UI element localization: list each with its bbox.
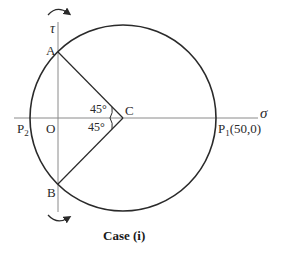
angle-arc-lower [110,118,112,129]
mohr-circle-diagram: τ σ O A B C 45° 45° P2 P1(50,0) Case (i) [0,0,284,253]
rotation-arrow-bottom-icon [48,215,68,221]
point-c-label: C [125,103,134,118]
angle-upper-label: 45° [90,102,107,116]
point-p2-label: P2 [17,121,29,138]
sigma-label: σ [260,105,268,121]
point-b-label: B [47,185,56,200]
angle-arc-upper [110,107,112,118]
angle-lower-label: 45° [88,120,105,134]
rotation-arrow-top-icon [48,9,68,15]
diagram-caption: Case (i) [103,228,145,243]
tau-label: τ [50,21,56,36]
point-p1-label: P1(50,0) [218,121,261,138]
origin-label: O [46,121,55,136]
point-a-label: A [46,43,56,58]
